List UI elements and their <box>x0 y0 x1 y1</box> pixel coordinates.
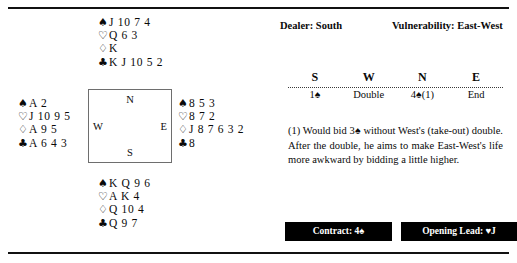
auction-bid-south: 1♠ <box>288 89 342 100</box>
heart-icon: ♡ <box>98 190 109 203</box>
auction-bid-west: Double <box>342 89 396 100</box>
auction-footnote: (1) Would bid 3♠ without West's (take-ou… <box>288 124 503 168</box>
diamond-icon: ♢ <box>98 203 109 216</box>
spade-icon: ♠ <box>98 16 109 29</box>
heart-icon: ♡ <box>98 29 109 42</box>
bottom-rule <box>8 252 509 254</box>
auction-header-row: S W N E <box>288 70 503 86</box>
hand-west-diamonds-cards: A 9 5 <box>29 123 57 136</box>
club-icon: ♣ <box>98 217 109 230</box>
hand-south-diamonds: ♢ Q 10 4 <box>98 203 151 216</box>
auction-table: S W N E 1♠ Double 4♠(1) End <box>288 70 503 100</box>
auction-bid-east: End <box>449 89 503 100</box>
result-bars: Contract: 4♠ Opening Lead: ♥J <box>285 222 517 241</box>
auction-bid-row: 1♠ Double 4♠(1) End <box>288 89 503 100</box>
bridge-deal-page: ♠ J 10 7 4 ♡ Q 6 3 ♢ K ♣ K J 10 5 2 ♠ A … <box>0 0 517 263</box>
hand-west-spades-cards: A 2 <box>29 97 47 110</box>
auction-divider <box>288 87 503 88</box>
hand-west: ♠ A 2 ♡ J 10 9 5 ♢ A 9 5 ♣ A 6 4 3 <box>18 97 71 150</box>
hand-north-spades-cards: J 10 7 4 <box>109 16 151 29</box>
hand-east-clubs-cards: 8 <box>189 137 195 150</box>
hand-south-hearts: ♡ A K 4 <box>98 190 151 203</box>
hand-east-clubs: ♣ 8 <box>178 137 244 150</box>
diamond-icon: ♢ <box>178 123 189 136</box>
heart-icon: ♡ <box>18 110 29 123</box>
compass-west-label: W <box>93 121 103 132</box>
hand-south-clubs: ♣ Q 9 7 <box>98 217 151 230</box>
auction-bid-north: 4♠(1) <box>396 89 450 100</box>
club-icon: ♣ <box>98 56 109 69</box>
diamond-icon: ♢ <box>18 123 29 136</box>
hand-south-clubs-cards: Q 9 7 <box>109 217 138 230</box>
deal-diagram: ♠ J 10 7 4 ♡ Q 6 3 ♢ K ♣ K J 10 5 2 ♠ A … <box>0 0 275 252</box>
diamond-icon: ♢ <box>98 42 109 55</box>
compass-south-label: S <box>127 147 133 158</box>
dealer-label: Dealer: South <box>276 20 392 31</box>
spade-icon: ♠ <box>98 177 109 190</box>
hand-east-hearts: ♡ 8 7 2 <box>178 110 244 123</box>
hand-east-hearts-cards: 8 7 2 <box>189 110 216 123</box>
hand-east-diamonds-cards: J 8 7 6 3 2 <box>189 123 244 136</box>
club-icon: ♣ <box>18 137 29 150</box>
hand-north-hearts-cards: Q 6 3 <box>109 29 138 42</box>
spade-icon: ♠ <box>178 97 189 110</box>
compass-east-label: E <box>161 121 167 132</box>
hand-east-diamonds: ♢ J 8 7 6 3 2 <box>178 123 244 136</box>
auction-col-south: S <box>288 70 342 86</box>
auction-col-east: E <box>449 70 503 86</box>
hand-south-diamonds-cards: Q 10 4 <box>109 203 145 216</box>
auction-col-west: W <box>342 70 396 86</box>
hand-west-hearts-cards: J 10 9 5 <box>29 110 71 123</box>
hand-west-spades: ♠ A 2 <box>18 97 71 110</box>
hand-west-hearts: ♡ J 10 9 5 <box>18 110 71 123</box>
hand-north-hearts: ♡ Q 6 3 <box>98 29 163 42</box>
contract-badge: Contract: 4♠ <box>285 222 392 241</box>
hand-south-hearts-cards: A K 4 <box>109 190 140 203</box>
heart-icon: ♡ <box>178 110 189 123</box>
hand-east: ♠ 8 5 3 ♡ 8 7 2 ♢ J 8 7 6 3 2 ♣ 8 <box>178 97 244 150</box>
compass-north-label: N <box>126 94 134 105</box>
hand-north-clubs: ♣ K J 10 5 2 <box>98 56 163 69</box>
compass-box: N W E S <box>88 89 172 163</box>
vulnerability-label: Vulnerability: East-West <box>392 20 517 31</box>
info-column: Dealer: South Vulnerability: East-West S… <box>276 0 517 252</box>
hand-west-clubs: ♣ A 6 4 3 <box>18 137 71 150</box>
hand-north-clubs-cards: K J 10 5 2 <box>109 56 163 69</box>
hand-east-spades-cards: 8 5 3 <box>189 97 216 110</box>
spade-icon: ♠ <box>18 97 29 110</box>
hand-west-diamonds: ♢ A 9 5 <box>18 123 71 136</box>
club-icon: ♣ <box>178 137 189 150</box>
hand-south-spades-cards: K Q 9 6 <box>109 177 151 190</box>
hand-north-diamonds: ♢ K <box>98 42 163 55</box>
deal-header: Dealer: South Vulnerability: East-West <box>276 20 517 31</box>
hand-south: ♠ K Q 9 6 ♡ A K 4 ♢ Q 10 4 ♣ Q 9 7 <box>98 177 151 230</box>
hand-east-spades: ♠ 8 5 3 <box>178 97 244 110</box>
opening-lead-badge: Opening Lead: ♥J <box>401 222 517 241</box>
hand-north-spades: ♠ J 10 7 4 <box>98 16 163 29</box>
hand-north-diamonds-cards: K <box>109 42 118 55</box>
hand-west-clubs-cards: A 6 4 3 <box>29 137 67 150</box>
hand-north: ♠ J 10 7 4 ♡ Q 6 3 ♢ K ♣ K J 10 5 2 <box>98 16 163 69</box>
hand-south-spades: ♠ K Q 9 6 <box>98 177 151 190</box>
auction-col-north: N <box>396 70 450 86</box>
